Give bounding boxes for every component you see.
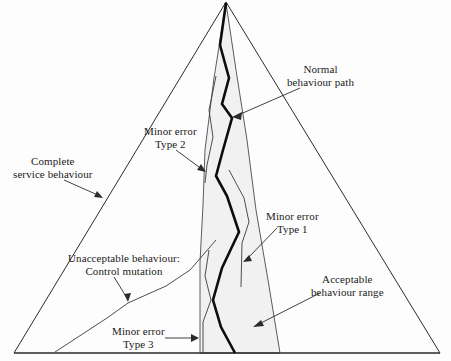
label-unacceptable-behaviour-line2: Control mutation (68, 265, 180, 278)
label-minor-error-type-2: Minor error Type 2 (144, 125, 197, 151)
minor-error-type-3-arrow (165, 334, 199, 342)
complete-service-behaviour-arrow (64, 180, 103, 198)
label-normal-behaviour-path-line2: behaviour path (287, 76, 354, 89)
label-acceptable-behaviour-range: Acceptable behaviour range (311, 273, 384, 299)
label-complete-service-behaviour-line1: Complete (13, 155, 93, 168)
label-minor-error-type-3-line1: Minor error (112, 325, 165, 338)
diagram-canvas: Normal behaviour path Minor error Type 2… (0, 0, 451, 361)
label-minor-error-type-2-line1: Minor error (144, 125, 197, 138)
label-complete-service-behaviour: Complete service behaviour (13, 155, 93, 181)
label-acceptable-behaviour-range-line2: behaviour range (311, 286, 384, 299)
label-normal-behaviour-path: Normal behaviour path (287, 63, 354, 89)
label-unacceptable-behaviour-line1: Unacceptable behaviour: (68, 252, 180, 265)
label-minor-error-type-3-line2: Type 3 (112, 338, 165, 351)
label-minor-error-type-1-line2: Type 1 (266, 223, 319, 236)
label-minor-error-type-2-line2: Type 2 (144, 138, 197, 151)
label-complete-service-behaviour-line2: service behaviour (13, 168, 93, 181)
minor-error-type-2-arrow (176, 150, 206, 172)
label-unacceptable-behaviour: Unacceptable behaviour: Control mutation (68, 252, 180, 278)
label-acceptable-behaviour-range-line1: Acceptable (311, 273, 384, 286)
unacceptable-behaviour-arrow (114, 277, 131, 302)
label-minor-error-type-1: Minor error Type 1 (266, 210, 319, 236)
label-normal-behaviour-path-line1: Normal (287, 63, 354, 76)
label-minor-error-type-3: Minor error Type 3 (112, 325, 165, 351)
label-minor-error-type-1-line1: Minor error (266, 210, 319, 223)
